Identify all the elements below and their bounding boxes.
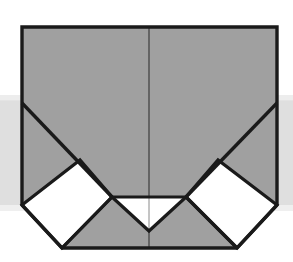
origami-diagram-svg xyxy=(0,0,293,262)
origami-diagram-figure: Origami fold step diagram xyxy=(0,0,293,262)
